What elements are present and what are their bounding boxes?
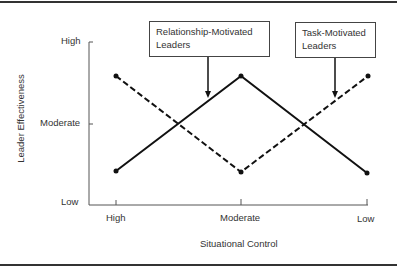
arrow-head-icon [205, 91, 211, 98]
y-tick-label-moderate: Moderate [40, 117, 80, 128]
arrow-head-icon [332, 91, 338, 98]
y-tick-label-low: Low [61, 196, 78, 207]
data-point [365, 171, 370, 176]
annotation-line: Leaders [156, 38, 263, 51]
data-point [366, 74, 371, 79]
y-axis-title: Leader Effectiveness [15, 69, 26, 169]
annotation-line: Leaders [302, 39, 369, 52]
x-axis-title: Situational Control [200, 238, 278, 249]
data-point [239, 74, 244, 79]
x-tick-label-moderate: Moderate [220, 212, 260, 223]
y-tick-label-high: High [61, 35, 81, 46]
axes [89, 42, 368, 205]
dashed-series-line [116, 76, 368, 172]
x-tick-label-low: Low [357, 213, 374, 224]
data-point [239, 170, 244, 175]
annotation-task: Task-Motivated Leaders [295, 22, 376, 58]
annotation-relationship: Relationship-Motivated Leaders [149, 21, 270, 57]
data-point [114, 169, 119, 174]
annotation-line: Task-Motivated [302, 26, 369, 39]
data-point [114, 74, 119, 79]
annotation-line: Relationship-Motivated [156, 25, 263, 38]
x-tick-label-high: High [106, 212, 126, 223]
solid-series-line [116, 76, 367, 173]
